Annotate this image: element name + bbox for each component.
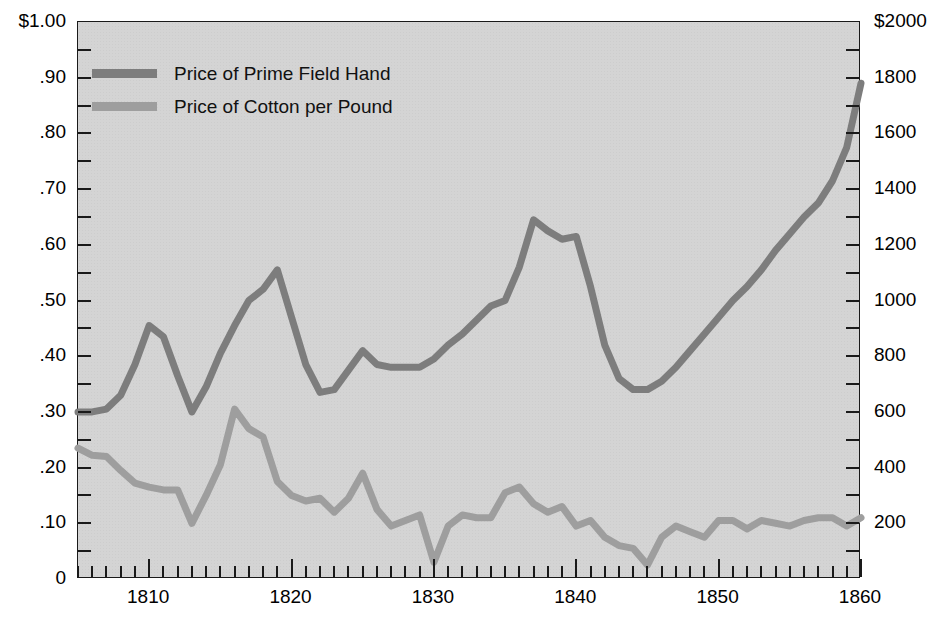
x-axis-tick-minor [77,566,79,577]
left-axis-tick [78,300,91,302]
right-axis-minor-tick [846,439,859,441]
right-axis-minor-tick [846,272,859,274]
left-axis-minor-tick [78,160,91,162]
right-axis: $200018001600140012001000800600400200 [874,21,941,578]
left-axis-tick-label: .90 [40,66,66,88]
x-axis-tick-minor [404,566,406,577]
left-axis-tick [78,355,91,357]
legend-label-field-hand: Price of Prime Field Hand [174,63,390,85]
right-axis-tick [846,467,859,469]
x-axis-tick-minor [746,566,748,577]
x-axis-tick-minor [248,566,250,577]
legend-item-cotton[interactable]: Price of Cotton per Pound [92,90,393,123]
right-axis-minor-tick [846,105,859,107]
right-axis-minor-tick [846,327,859,329]
left-axis-tick [78,522,91,524]
x-axis-tick-minor [803,566,805,577]
x-axis-tick-major [575,559,577,577]
right-axis-minor-tick [846,49,859,51]
left-axis-tick-label: .70 [40,177,66,199]
x-axis-tick-major [718,559,720,577]
left-axis: $1.00.90.80.70.60.50.40.30.20.100 [0,21,66,578]
right-axis-tick [846,522,859,524]
x-axis-tick-minor [105,566,107,577]
x-axis-tick-minor [134,566,136,577]
x-axis-tick-minor [191,566,193,577]
left-axis-minor-tick [78,550,91,552]
right-axis-tick [846,244,859,246]
right-axis-minor-tick [846,550,859,552]
left-axis-minor-tick [78,383,91,385]
right-axis-tick-label: 600 [874,400,906,422]
x-axis-tick-minor [333,566,335,577]
right-axis-minor-tick [846,383,859,385]
right-axis-tick-label: 200 [874,511,906,533]
left-axis-minor-tick [78,494,91,496]
x-axis-tick-minor [390,566,392,577]
x-axis-tick-label: 1850 [696,586,738,608]
right-axis-minor-tick [846,160,859,162]
x-axis-tick-label: 1820 [269,586,311,608]
x-axis-tick-minor [618,566,620,577]
right-axis-tick [846,77,859,79]
left-axis-minor-tick [78,327,91,329]
x-axis-tick-minor [533,566,535,577]
left-axis-tick-label: .50 [40,289,66,311]
x-axis-tick-major [148,559,150,577]
left-axis-tick [78,77,91,79]
left-axis-minor-tick [78,216,91,218]
x-axis-tick-minor [476,566,478,577]
x-axis-tick-minor [490,566,492,577]
right-axis-tick-label: 1200 [874,233,916,255]
x-axis-tick-minor [376,566,378,577]
x-axis-tick-minor [675,566,677,577]
left-axis-tick-label: 0 [55,567,66,589]
right-axis-tick [846,188,859,190]
left-axis-tick-label: .20 [40,456,66,478]
left-axis-tick-label: .80 [40,121,66,143]
series-line-cotton [78,409,861,565]
right-axis-tick [846,355,859,357]
x-axis-tick-minor [120,566,122,577]
x-axis-tick-minor [846,566,848,577]
right-axis-tick-label: 1800 [874,66,916,88]
right-axis-tick [846,132,859,134]
x-axis-tick-minor [775,566,777,577]
left-axis-tick [78,188,91,190]
x-axis-tick-minor [205,566,207,577]
x-axis-tick-minor [319,566,321,577]
left-axis-tick [78,467,91,469]
x-axis-tick-minor [91,566,93,577]
right-axis-minor-tick [846,216,859,218]
right-axis-tick-label: 1600 [874,121,916,143]
x-axis-tick-label: 1810 [127,586,169,608]
x-axis-tick-minor [703,566,705,577]
left-axis-minor-tick [78,272,91,274]
x-axis-tick-minor [447,566,449,577]
x-axis-tick-minor [732,566,734,577]
x-axis-tick-minor [262,566,264,577]
x-axis-tick-major [860,559,862,577]
left-axis-tick [78,132,91,134]
x-axis-tick-minor [561,566,563,577]
x-axis-tick-minor [547,566,549,577]
right-axis-tick [846,411,859,413]
right-axis-minor-tick [846,494,859,496]
legend-item-field-hand[interactable]: Price of Prime Field Hand [92,57,393,90]
x-axis-tick-minor [789,566,791,577]
x-axis-tick-minor [234,566,236,577]
x-axis-tick-minor [590,566,592,577]
x-axis-tick-minor [219,566,221,577]
left-axis-minor-tick [78,439,91,441]
right-axis-tick-label: $2000 [874,10,927,32]
x-axis-tick-minor [817,566,819,577]
x-axis-tick-minor [604,566,606,577]
x-axis-tick-minor [518,566,520,577]
x-axis-tick-minor [419,566,421,577]
left-axis-minor-tick [78,105,91,107]
x-axis-tick-minor [689,566,691,577]
x-axis-tick-minor [305,566,307,577]
left-axis-tick-label: .10 [40,511,66,533]
x-axis-tick-minor [347,566,349,577]
left-axis-tick-label: .40 [40,344,66,366]
